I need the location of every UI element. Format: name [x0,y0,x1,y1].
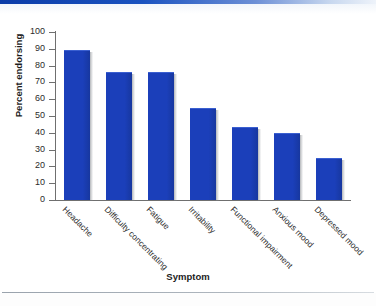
page-bottom-accent-rule [2,292,374,293]
x-axis-category-label: Irritability [187,205,217,235]
bar-shadow [132,74,135,201]
page-bottom-wash [0,293,376,306]
y-axis-tick [49,150,55,151]
y-axis-tick [49,166,55,167]
page-top-wash [0,4,376,14]
x-axis-category-label: Anxious mood [271,205,315,249]
y-axis-title: Percent endorsing [13,21,24,131]
y-axis-tick [49,66,55,67]
bar-shadow [90,52,93,201]
y-axis-tick [49,133,55,134]
x-axis-category-label: Headache [61,205,95,239]
y-axis-tick [49,200,55,201]
bar [316,158,342,200]
y-axis-line [55,31,56,201]
bar [190,108,216,200]
y-axis-tick-label: 0 [19,195,45,204]
y-axis-tick [49,49,55,50]
bar [148,72,174,200]
y-axis-tick [49,116,55,117]
bar-shadow [174,74,177,201]
y-axis-tick [49,32,55,33]
bar-shadow [342,160,345,201]
bar [232,127,258,200]
bar-shadow [216,110,219,201]
bar-shadow [258,129,261,201]
bar-chart: 0102030405060708090100 HeadacheDifficult… [0,14,376,292]
x-axis-category-label: Depressed mood [313,205,365,257]
bar-shadow [300,135,303,201]
bar [274,133,300,200]
x-axis-title: Symptom [0,271,376,282]
y-axis-tick [49,99,55,100]
y-axis-tick [49,82,55,83]
y-axis-tick-label: 30 [19,145,45,154]
x-axis-line [55,200,351,201]
y-axis-tick-label: 20 [19,161,45,170]
bar [106,72,132,200]
y-axis-tick [49,183,55,184]
y-axis-tick-label: 10 [19,178,45,187]
x-axis-category-label: Fatigue [145,205,171,231]
bar [64,50,90,200]
